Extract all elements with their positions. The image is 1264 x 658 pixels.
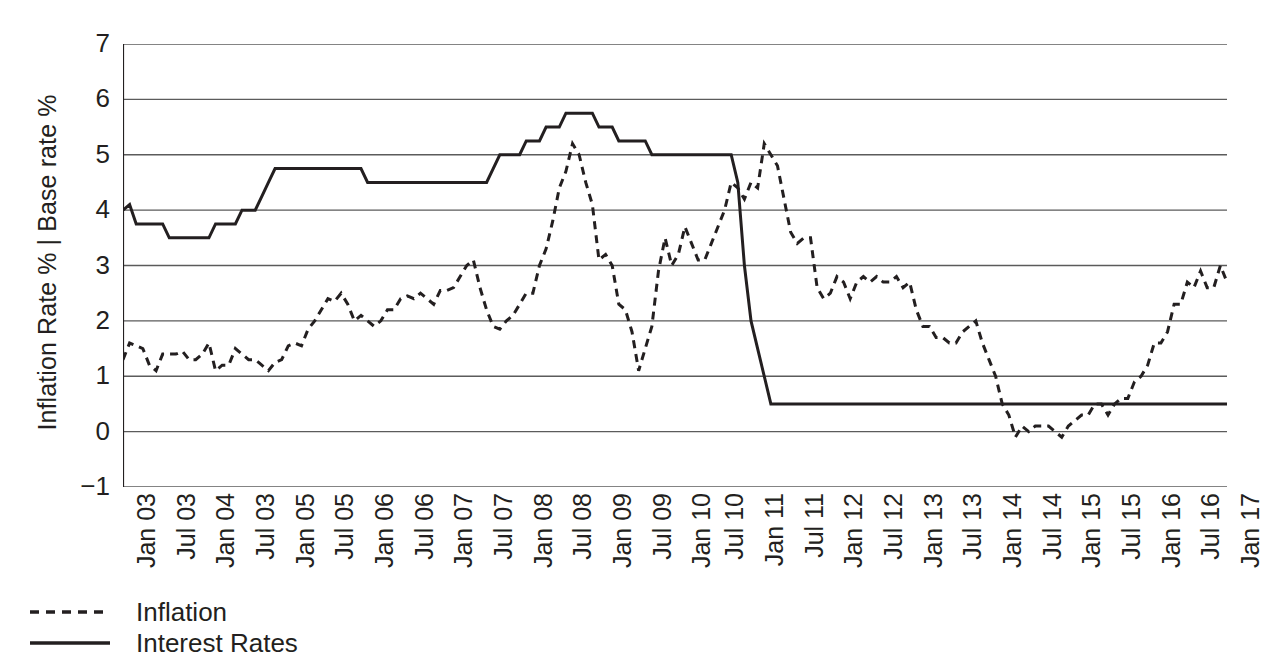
y-tick-label: 4 (50, 196, 110, 222)
x-tick-label: Jul 03 (172, 493, 200, 603)
y-tick-label: 7 (50, 30, 110, 56)
chart-legend: Inflation Interest Rates (28, 596, 448, 658)
x-tick-label: Jan 03 (132, 493, 160, 603)
y-tick-label: 3 (50, 252, 110, 278)
x-tick-label: Jul 15 (1117, 493, 1145, 603)
gridlines (123, 44, 1227, 487)
x-tick-label: Jul 16 (1196, 493, 1224, 603)
y-tick-label: −1 (50, 473, 110, 499)
x-tick-label: Jul 05 (330, 493, 358, 603)
x-tick-label: Jan 11 (760, 493, 788, 603)
x-tick-label: Jan 14 (998, 493, 1026, 603)
x-tick-label: Jan 17 (1236, 493, 1264, 603)
x-tick-label: Jan 06 (370, 493, 398, 603)
legend-label-interest-rates: Interest Rates (136, 629, 298, 657)
x-tick-label: Jan 12 (839, 493, 867, 603)
x-tick-label: Jul 09 (648, 493, 676, 603)
x-tick-label: Jul 06 (410, 493, 438, 603)
legend-label-inflation: Inflation (136, 598, 227, 626)
x-tick-label: Jan 04 (211, 493, 239, 603)
y-tick-label: 2 (50, 307, 110, 333)
x-tick-label: Jan 15 (1077, 493, 1105, 603)
x-tick-label: Jan 10 (687, 493, 715, 603)
x-tick-label: Jul 12 (879, 493, 907, 603)
x-tick-label: Jul 08 (568, 493, 596, 603)
series-lines (123, 113, 1227, 437)
x-tick-label: Jan 13 (919, 493, 947, 603)
y-tick-label: 1 (50, 362, 110, 388)
legend-item-interest-rates[interactable]: Interest Rates (28, 627, 448, 658)
x-tick-label: Jan 16 (1157, 493, 1185, 603)
x-tick-label: Jan 07 (449, 493, 477, 603)
plot-area (123, 44, 1227, 487)
x-tick-label: Jan 05 (291, 493, 319, 603)
legend-item-inflation[interactable]: Inflation (28, 596, 448, 627)
plot-svg (123, 44, 1227, 487)
y-tick-label: 5 (50, 141, 110, 167)
series-line-inflation (123, 144, 1227, 437)
legend-swatch-solid-icon (28, 636, 112, 650)
x-tick-label: Jul 14 (1038, 493, 1066, 603)
legend-swatch-dashed-icon (28, 605, 112, 619)
y-tick-label: 0 (50, 418, 110, 444)
y-axis-tick-labels: 76543210−1 (50, 0, 110, 658)
y-tick-label: 6 (50, 85, 110, 111)
x-tick-label: Jul 07 (489, 493, 517, 603)
x-tick-label: Jul 03 (251, 493, 279, 603)
x-tick-label: Jan 09 (608, 493, 636, 603)
x-tick-label: Jul 11 (800, 493, 828, 603)
x-tick-label: Jul 10 (720, 493, 748, 603)
x-tick-label: Jul 13 (958, 493, 986, 603)
x-axis-tick-labels: Jan 03Jul 03Jan 04Jul 03Jan 05Jul 05Jan … (123, 491, 1227, 591)
x-tick-label: Jan 08 (529, 493, 557, 603)
